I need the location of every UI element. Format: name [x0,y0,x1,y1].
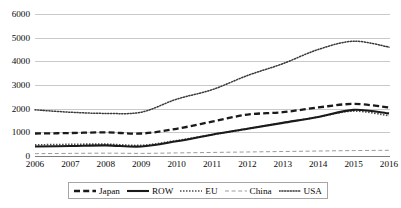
legend-swatch-japan [74,188,96,194]
legend-swatch-row [127,188,149,194]
legend-label: USA [304,186,322,196]
series-line-china [35,150,389,153]
gridline-0 [35,156,390,157]
x-tick-label: 2015 [344,159,362,170]
x-tick-label: 2010 [167,159,185,170]
y-tick-label: 6000 [12,10,30,19]
y-axis: 0100020003000400050006000 [0,0,33,170]
legend-entry-eu[interactable]: EU [180,186,217,196]
legend-entry-row[interactable]: ROW [127,186,173,196]
y-tick-label: 2000 [12,104,30,113]
series-line-eu [35,111,389,145]
x-tick-label: 2009 [132,159,150,170]
series-line-usa [35,41,389,113]
y-tick-label: 3000 [12,81,30,90]
x-tick-label: 2016 [380,159,398,170]
legend-label: Japan [99,186,120,196]
plot-area [35,14,390,156]
legend-entry-china[interactable]: China [225,186,272,196]
x-tick-label: 2008 [97,159,115,170]
chart-legend: JapanROWEUChinaUSA [68,182,328,199]
x-tick-label: 2006 [26,159,44,170]
y-tick-label: 1000 [12,128,30,137]
legend-entry-japan[interactable]: Japan [74,186,120,196]
x-tick-label: 2011 [203,159,221,170]
x-tick-label: 2012 [238,159,256,170]
x-tick-label: 2007 [61,159,79,170]
y-tick-label: 4000 [12,57,30,66]
legend-swatch-usa [279,188,301,194]
legend-swatch-china [225,188,247,194]
legend-label: EU [205,186,217,196]
legend-label: ROW [152,186,173,196]
x-axis: 2006200720082009201020112012201320142015… [35,159,390,173]
series-line-japan [35,104,389,134]
legend-swatch-eu [180,188,202,194]
series-line-row [35,110,389,147]
line-chart: 0100020003000400050006000 20062007200820… [0,0,401,208]
x-tick-label: 2013 [274,159,292,170]
legend-label: China [250,186,272,196]
legend-entry-usa[interactable]: USA [279,186,322,196]
y-tick-label: 5000 [12,33,30,42]
x-tick-label: 2014 [309,159,327,170]
series-lines [35,14,390,156]
